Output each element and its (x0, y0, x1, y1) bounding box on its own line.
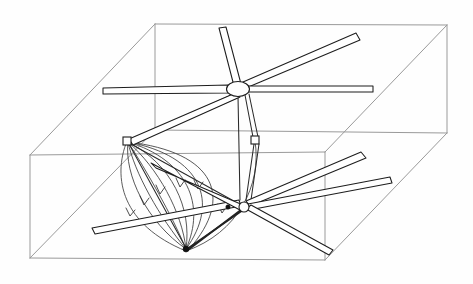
hull-outer-left (121, 141, 186, 251)
upper-blade-downleft (129, 94, 240, 145)
lower-rotor (92, 152, 392, 255)
lower-hub-node (239, 202, 249, 212)
upper-blade-left (103, 85, 228, 94)
box-edge-back-top (155, 24, 447, 25)
flow-curve-8 (128, 142, 213, 248)
box-edge-diag-bottom-right (325, 133, 447, 260)
technical-sketch: Hand-drawn 3D sketch of a dual-rotor mec… (0, 0, 473, 284)
lower-blade-downright (246, 205, 333, 255)
strut-hub-vertical-drop (238, 96, 240, 200)
upper-blade-up (219, 27, 241, 86)
right-upper-node (251, 136, 259, 144)
upper-blade-right (247, 86, 373, 92)
flow-arrowhead-1 (126, 208, 135, 216)
flow-arrowhead-2 (140, 196, 149, 205)
left-vertex-node (123, 137, 131, 145)
lower-blade-left (92, 200, 241, 234)
box-edge-back-bottom (155, 130, 447, 133)
sketch-canvas: Hand-drawn 3D sketch of a dual-rotor mec… (0, 0, 473, 284)
strut-left-to-bottom (129, 144, 186, 248)
lower-hub-center-dot (226, 205, 230, 209)
upper-rotor (103, 27, 373, 145)
flow-curve-group (121, 141, 256, 251)
box-edge-front-bottom (30, 258, 325, 260)
bottom-vertex-node (183, 246, 189, 252)
upper-hub-node (227, 82, 250, 97)
upper-blade-upright (243, 33, 360, 88)
lower-blade-upleft (151, 163, 243, 210)
